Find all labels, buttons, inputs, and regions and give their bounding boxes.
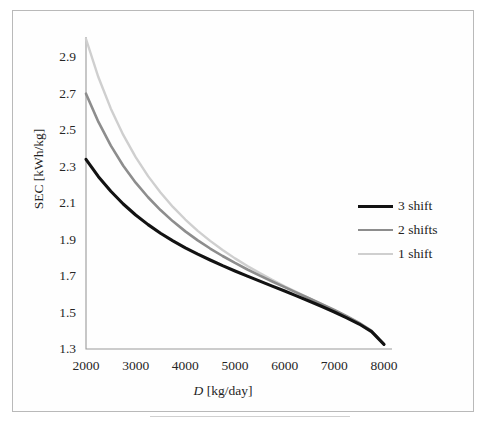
page-scan-artifact — [150, 416, 350, 417]
figure-frame: SEC [kWh/kg] D [kg/day] 3 shift2 shifts1… — [12, 10, 474, 412]
x-tick-label: 5000 — [210, 359, 260, 373]
x-tick-label: 2000 — [61, 359, 111, 373]
x-axis-variable: D — [194, 383, 204, 398]
legend-swatch-line — [358, 229, 393, 231]
legend-item-label: 2 shifts — [398, 223, 437, 237]
x-tick-label: 7000 — [309, 359, 359, 373]
legend-item-label: 3 shift — [398, 199, 432, 213]
series-line — [86, 39, 384, 344]
legend-swatch-line — [358, 205, 393, 208]
y-tick-label: 2.7 — [42, 87, 76, 101]
legend-item: 1 shift — [358, 242, 470, 266]
x-axis-title: D [kg/day] — [73, 383, 373, 399]
y-tick-label: 1.7 — [42, 269, 76, 283]
x-axis-units: [kg/day] — [207, 383, 253, 398]
legend-item: 3 shift — [358, 194, 470, 218]
y-tick-label: 1.9 — [42, 233, 76, 247]
legend-swatch-line — [358, 253, 393, 255]
legend-item-label: 1 shift — [398, 247, 432, 261]
x-tick-label: 8000 — [359, 359, 409, 373]
axis-spines — [86, 37, 392, 349]
chart-legend: 3 shift2 shifts1 shift — [358, 194, 470, 266]
series-line — [86, 159, 384, 344]
y-tick-label: 2.1 — [42, 196, 76, 210]
y-tick-label: 2.3 — [42, 160, 76, 174]
x-tick-label: 4000 — [160, 359, 210, 373]
y-tick-label: 2.9 — [42, 50, 76, 64]
chart-plot-area: SEC [kWh/kg] D [kg/day] 3 shift2 shifts1… — [13, 11, 475, 413]
x-tick-label: 3000 — [111, 359, 161, 373]
y-tick-label: 1.5 — [42, 306, 76, 320]
legend-item: 2 shifts — [358, 218, 470, 242]
y-tick-label: 2.5 — [42, 123, 76, 137]
y-tick-label: 1.3 — [42, 342, 76, 356]
x-tick-label: 6000 — [260, 359, 310, 373]
series-line — [86, 94, 384, 345]
